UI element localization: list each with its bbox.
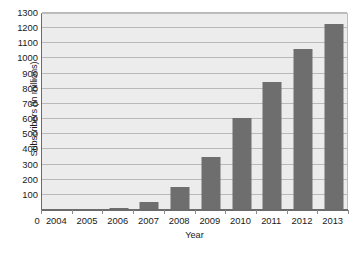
bar[interactable] <box>232 118 251 210</box>
y-axis-tick-label: 1200 <box>9 23 38 33</box>
x-axis-tick-labels: 2004200520062007200820092010201120122013 <box>22 215 356 229</box>
x-axis-tick <box>195 210 196 214</box>
bar[interactable] <box>324 24 343 210</box>
bar-slot[interactable] <box>257 14 288 210</box>
x-axis-tick <box>72 210 73 214</box>
y-axis-tick-label: 500 <box>9 129 38 139</box>
bar-slot[interactable] <box>196 14 227 210</box>
y-axis-tick-label: 1300 <box>9 8 38 18</box>
x-axis-tick <box>41 210 42 214</box>
x-axis-tick-label: 2013 <box>315 215 351 227</box>
y-axis-tick-label: 600 <box>9 114 38 124</box>
bar-slot[interactable] <box>42 14 73 210</box>
bar-slot[interactable] <box>134 14 165 210</box>
bars-layer <box>42 14 347 210</box>
bar-slot[interactable] <box>103 14 134 210</box>
x-axis-tick <box>348 210 349 214</box>
x-axis-tick <box>133 210 134 214</box>
bar[interactable] <box>171 187 190 210</box>
y-axis-tick-label: 1100 <box>9 38 38 48</box>
y-axis-tick-label: 300 <box>9 160 38 170</box>
y-axis-tick-label: 700 <box>9 99 38 109</box>
x-axis-tick <box>287 210 288 214</box>
x-axis-title: Year <box>41 230 348 240</box>
bar[interactable] <box>201 157 220 210</box>
x-axis-tick <box>164 210 165 214</box>
bar-slot[interactable] <box>165 14 196 210</box>
plot-area <box>41 13 348 210</box>
x-axis-tick <box>317 210 318 214</box>
x-axis-tick <box>256 210 257 214</box>
x-axis-tick <box>225 210 226 214</box>
bar-slot[interactable] <box>288 14 319 210</box>
y-axis-tick-label: 100 <box>9 190 38 200</box>
bar[interactable] <box>293 49 312 210</box>
bar-slot[interactable] <box>318 14 349 210</box>
bar-slot[interactable] <box>226 14 257 210</box>
bar-chart-figure: Subscribers (in millions) 10020030040050… <box>0 0 356 257</box>
y-axis-tick-label: 200 <box>9 175 38 185</box>
x-axis-tick <box>102 210 103 214</box>
bar-slot[interactable] <box>73 14 104 210</box>
bar[interactable] <box>263 82 282 210</box>
y-axis-tick-label: 1000 <box>9 53 38 63</box>
y-axis-tick-labels: 1002003004005006007008009001000110012001… <box>9 8 38 212</box>
y-axis-tick-label: 900 <box>9 69 38 79</box>
gridline <box>42 12 347 13</box>
y-axis-tick-label: 800 <box>9 84 38 94</box>
y-axis-tick-label: 400 <box>9 144 38 154</box>
